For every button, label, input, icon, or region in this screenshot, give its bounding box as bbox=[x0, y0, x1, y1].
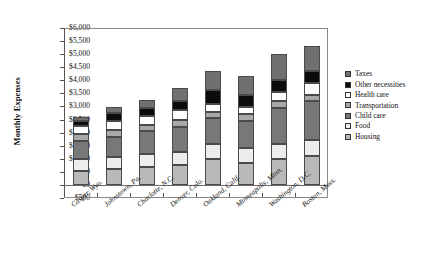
bar-segment[interactable] bbox=[238, 95, 254, 107]
x-axis-tick-mark bbox=[64, 193, 65, 197]
bar-segment[interactable] bbox=[304, 71, 320, 83]
legend-swatch-icon bbox=[345, 134, 351, 140]
bar-segment[interactable] bbox=[172, 110, 188, 119]
bar-segment[interactable] bbox=[172, 165, 188, 185]
legend-item[interactable]: Child care bbox=[345, 111, 405, 121]
legend-item[interactable]: Transportation bbox=[345, 100, 405, 110]
x-axis-tick-mark bbox=[229, 193, 230, 197]
legend-label: Other necessities bbox=[355, 81, 405, 88]
legend-label: Housing bbox=[355, 133, 380, 140]
bar-segment[interactable] bbox=[238, 121, 254, 148]
bar-segment[interactable] bbox=[304, 140, 320, 156]
bar-segment[interactable] bbox=[172, 127, 188, 152]
bar-segment[interactable] bbox=[304, 83, 320, 95]
bar-segment[interactable] bbox=[271, 108, 287, 145]
stacked-bar[interactable] bbox=[304, 46, 320, 185]
bar-segment[interactable] bbox=[139, 131, 155, 153]
bar-segment[interactable] bbox=[73, 141, 89, 159]
legend-label: Transportation bbox=[355, 102, 398, 109]
y-axis-tick-mark bbox=[60, 198, 64, 199]
bar-segment[interactable] bbox=[238, 148, 254, 162]
bar-segment[interactable] bbox=[205, 90, 221, 104]
legend-swatch-icon bbox=[345, 82, 351, 88]
legend-item[interactable]: Food bbox=[345, 121, 405, 131]
x-axis-tick-mark bbox=[97, 193, 98, 197]
stacked-bar[interactable] bbox=[172, 88, 188, 185]
bar-segment[interactable] bbox=[106, 113, 122, 121]
x-axis-tick-mark bbox=[163, 193, 164, 197]
legend-label: Health care bbox=[355, 91, 389, 98]
bar-segment[interactable] bbox=[271, 144, 287, 158]
bar-segment[interactable] bbox=[139, 116, 155, 125]
bar-segment[interactable] bbox=[139, 108, 155, 116]
stacked-bar[interactable] bbox=[205, 71, 221, 185]
bar-segment[interactable] bbox=[271, 54, 287, 80]
bar-segment[interactable] bbox=[205, 144, 221, 158]
legend-swatch-icon bbox=[345, 102, 351, 108]
x-axis-tick-mark bbox=[295, 193, 296, 197]
bar-segment[interactable] bbox=[106, 137, 122, 158]
legend-label: Food bbox=[355, 122, 370, 129]
expenses-stacked-bar-chart: Monthly Expenses $6,000$5,500$5,000$4,50… bbox=[0, 0, 424, 273]
bar-segment[interactable] bbox=[73, 171, 89, 185]
bar-segment[interactable] bbox=[139, 100, 155, 108]
bar-segment[interactable] bbox=[172, 88, 188, 101]
bar-segment[interactable] bbox=[238, 107, 254, 115]
bar-segment[interactable] bbox=[205, 104, 221, 112]
bar-series-container bbox=[64, 28, 328, 198]
x-axis-tick-mark bbox=[196, 193, 197, 197]
bar-segment[interactable] bbox=[304, 46, 320, 71]
stacked-bar[interactable] bbox=[106, 107, 122, 185]
bar-segment[interactable] bbox=[172, 101, 188, 110]
legend-item[interactable]: Other necessities bbox=[345, 79, 405, 89]
bar-segment[interactable] bbox=[139, 154, 155, 167]
chart-legend: TaxesOther necessitiesHealth careTranspo… bbox=[345, 69, 405, 142]
legend-item[interactable]: Taxes bbox=[345, 69, 405, 79]
bar-segment[interactable] bbox=[73, 126, 89, 134]
bar-segment[interactable] bbox=[304, 101, 320, 140]
legend-item[interactable]: Housing bbox=[345, 131, 405, 141]
stacked-bar[interactable] bbox=[238, 76, 254, 184]
bar-segment[interactable] bbox=[139, 167, 155, 185]
legend-label: Taxes bbox=[355, 70, 372, 77]
bar-segment[interactable] bbox=[73, 159, 89, 171]
bar-segment[interactable] bbox=[271, 80, 287, 92]
bar-segment[interactable] bbox=[205, 71, 221, 89]
bar-segment[interactable] bbox=[106, 157, 122, 169]
bar-segment[interactable] bbox=[106, 169, 122, 185]
bar-segment[interactable] bbox=[172, 152, 188, 165]
legend-swatch-icon bbox=[345, 113, 351, 119]
stacked-bar[interactable] bbox=[139, 100, 155, 185]
bar-segment[interactable] bbox=[106, 121, 122, 130]
bar-segment[interactable] bbox=[205, 118, 221, 144]
legend-swatch-icon bbox=[345, 71, 351, 77]
x-axis-tick-mark bbox=[130, 193, 131, 197]
x-axis-tick-mark bbox=[262, 193, 263, 197]
plot-area bbox=[64, 28, 328, 198]
legend-swatch-icon bbox=[345, 123, 351, 129]
stacked-bar[interactable] bbox=[73, 117, 89, 185]
legend-item[interactable]: Health care bbox=[345, 90, 405, 100]
bar-segment[interactable] bbox=[238, 163, 254, 185]
bar-segment[interactable] bbox=[238, 76, 254, 94]
legend-swatch-icon bbox=[345, 92, 351, 98]
bar-segment[interactable] bbox=[205, 159, 221, 185]
y-axis-title: Monthly Expenses bbox=[8, 56, 26, 166]
bar-segment[interactable] bbox=[172, 120, 188, 128]
bar-segment[interactable] bbox=[271, 92, 287, 101]
legend-label: Child care bbox=[355, 112, 386, 119]
